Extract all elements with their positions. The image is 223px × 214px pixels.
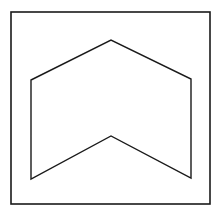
diagram-canvas xyxy=(0,0,223,214)
chevron-shape xyxy=(31,40,191,179)
